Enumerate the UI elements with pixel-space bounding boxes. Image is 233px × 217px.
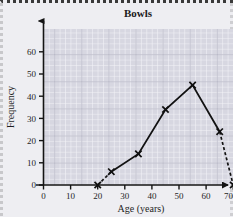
x-tick-label-10: 10 <box>66 191 76 201</box>
x-tick-label-0: 0 <box>41 191 46 201</box>
y-tick-label-0: 0 <box>32 180 37 190</box>
x-axis-ticks: 0 10 20 30 40 50 60 70 <box>41 185 233 201</box>
chart-page: Bowls 0 10 20 30 40 50 60 <box>0 0 233 217</box>
y-tick-label-10: 10 <box>27 158 37 168</box>
x-tick-label-40: 40 <box>147 191 157 201</box>
y-tick-label-50: 50 <box>27 69 37 79</box>
y-axis-title: Frequency <box>5 86 16 128</box>
x-tick-label-70: 70 <box>224 191 233 201</box>
y-axis-ticks: 0 10 20 30 40 50 60 <box>27 47 44 190</box>
y-tick-label-60: 60 <box>27 47 37 57</box>
y-tick-label-30: 30 <box>27 114 37 124</box>
x-tick-label-30: 30 <box>120 191 130 201</box>
x-axis-title: Age (years) <box>118 203 165 215</box>
x-tick-label-60: 60 <box>202 191 212 201</box>
y-tick-label-40: 40 <box>27 92 37 102</box>
x-tick-label-50: 50 <box>175 191 185 201</box>
y-tick-label-20: 20 <box>27 136 37 146</box>
x-tick-label-20: 20 <box>93 191 103 201</box>
frequency-polygon-chart: Bowls 0 10 20 30 40 50 60 <box>0 0 233 217</box>
chart-title: Bowls <box>124 7 153 19</box>
